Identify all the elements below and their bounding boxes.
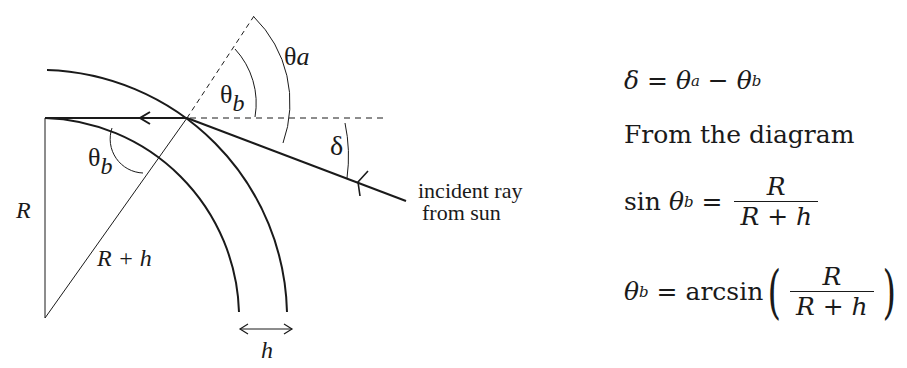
equals-sign: = [649, 277, 686, 306]
numerator: R [816, 262, 847, 291]
denominator: R + h [734, 201, 818, 231]
label-theta-a: θa [284, 42, 309, 72]
equals-sign: = [639, 66, 676, 95]
r-plus-h-line [45, 118, 187, 318]
label-delta: δ [330, 130, 343, 162]
left-paren: ( [768, 263, 782, 321]
theta-b-subscript: b [232, 90, 244, 116]
subscript-a: a [691, 72, 700, 90]
theta-b-symbol: θ [88, 143, 100, 172]
label-theta-b-upper: θb [220, 80, 244, 110]
equation-delta: δ = θa − θb [624, 66, 761, 95]
incident-line-1: incident ray [418, 180, 522, 202]
theta-symbol: θ [676, 66, 691, 95]
delta-arc [345, 123, 348, 178]
earth-surface-arc [45, 118, 239, 312]
label-h: h [261, 337, 273, 364]
theta-a-arc [254, 17, 290, 143]
equation-sin: sin θb = R R + h [624, 172, 822, 231]
numerator: R [761, 172, 792, 201]
delta-symbol: δ [624, 66, 639, 95]
fraction: R R + h [734, 172, 818, 231]
theta-a-subscript: a [296, 42, 309, 71]
theta-b-lower-arc [110, 128, 143, 173]
subscript-b: b [684, 193, 694, 211]
theta-symbol: θ [737, 66, 752, 95]
denominator: R + h [790, 291, 874, 321]
label-theta-b-lower: θb [88, 143, 112, 173]
right-paren: ) [882, 263, 896, 321]
theta-b-subscript: b [100, 153, 112, 179]
incident-ray [187, 118, 406, 201]
theta-b-symbol: θ [220, 80, 232, 109]
theta-symbol: θ [669, 187, 684, 216]
equation-arcsin: θb = arcsin ( R R + h ) [624, 262, 900, 321]
refraction-diagram [0, 0, 640, 368]
minus-sign: − [700, 66, 737, 95]
label-R: R [16, 197, 31, 224]
label-incident-ray: incident ray from sun [418, 180, 522, 224]
theta-symbol: θ [624, 277, 639, 306]
subscript-b: b [752, 72, 762, 90]
arcsin-fn: arcsin [686, 277, 764, 306]
text-from-diagram: From the diagram [624, 120, 854, 149]
incident-line-2: from sun [418, 202, 522, 224]
fraction: R R + h [790, 262, 874, 321]
outer-atmosphere-arc [47, 70, 287, 312]
sin-fn: sin [624, 187, 669, 216]
theta-a-symbol: θ [284, 42, 296, 71]
label-R-plus-h: R + h [97, 245, 152, 272]
equals-sign: = [694, 187, 731, 216]
subscript-b: b [639, 283, 649, 301]
